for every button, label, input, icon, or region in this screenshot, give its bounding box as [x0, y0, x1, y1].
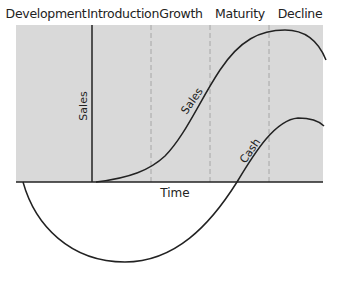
phase-label-growth: Growth — [159, 6, 202, 21]
time-axis-label: Time — [160, 186, 189, 200]
shaded-plot-area — [16, 25, 323, 182]
sales-axis-label: Sales — [77, 91, 90, 121]
phase-label-introduction: Introduction — [87, 6, 159, 21]
product-life-cycle-diagram: Sales Sales Cash Development Introductio… — [0, 0, 339, 282]
phase-label-decline: Decline — [278, 6, 323, 21]
phase-label-development: Development — [6, 6, 87, 21]
diagram-canvas: Sales Sales Cash — [0, 0, 339, 282]
phase-label-maturity: Maturity — [215, 6, 265, 21]
